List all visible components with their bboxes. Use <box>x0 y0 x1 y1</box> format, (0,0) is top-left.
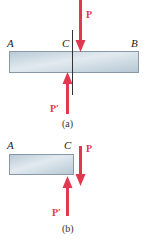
label-force-p-a: P <box>86 9 92 20</box>
label-force-p-b: P <box>86 143 92 154</box>
label-c-point-a: C <box>62 37 70 49</box>
label-a-point-a: A <box>6 37 14 49</box>
force-p-arrow-a <box>76 0 86 52</box>
caption-a: (a) <box>62 118 73 130</box>
label-force-p-prime-b: P′ <box>52 207 61 218</box>
shear-diagram: A C B P P′ (a) A C P P′ (b) <box>0 0 144 239</box>
label-c-point-b: C <box>64 139 72 151</box>
label-a-point-b: A <box>6 139 14 151</box>
label-force-p-prime-a: P′ <box>50 103 59 114</box>
force-p-prime-arrow-b <box>63 176 73 216</box>
caption-b: (b) <box>62 223 74 235</box>
figure-a: A C B P P′ (a) <box>6 0 139 130</box>
label-b-point-a: B <box>131 37 138 49</box>
force-p-arrow-b <box>76 146 86 186</box>
bar-ab <box>10 52 139 73</box>
force-p-prime-arrow-a <box>63 72 73 114</box>
figure-b: A C P P′ (b) <box>6 139 92 235</box>
bar-ac <box>10 155 74 175</box>
